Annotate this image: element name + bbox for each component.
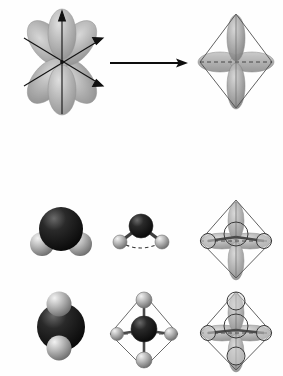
spacefill-two-ligand-model bbox=[28, 202, 94, 264]
octahedron-two-ligand-model bbox=[196, 196, 276, 280]
chemistry-figure: Formation of octahedral d2sp3 hybrid orb… bbox=[0, 0, 283, 376]
octahedron-orbitals-diagram bbox=[196, 8, 276, 112]
ballstick-four-ligand-model bbox=[104, 288, 184, 372]
ballstick-two-ligand-model bbox=[104, 204, 178, 262]
six-hybrid-orbitals-diagram bbox=[10, 4, 115, 119]
spacefill-four-ligand-model bbox=[32, 290, 90, 364]
transformation-arrow-icon bbox=[108, 52, 192, 74]
octahedron-four-ligand-model bbox=[196, 288, 276, 372]
